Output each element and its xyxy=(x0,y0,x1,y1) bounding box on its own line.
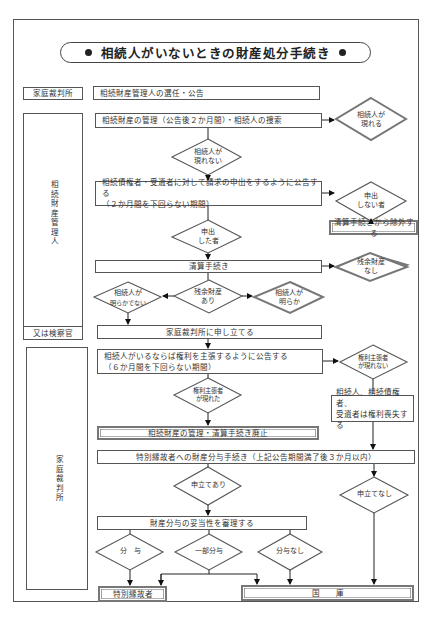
decision-text: なし xyxy=(364,267,378,276)
decision-text: 権利主張者 xyxy=(358,354,388,363)
step-text: 特別縁故者 xyxy=(113,589,153,600)
decision-residual: 残余財産 あり xyxy=(176,285,240,309)
title-banner: 相続人がいないときの財産処分手続き xyxy=(60,42,371,63)
decision-heir-appears: 相続人が 現れる xyxy=(338,108,404,132)
step-text: 国 庫 xyxy=(312,588,344,599)
decision-heir-unclear: 相続人が 明らかでない xyxy=(96,286,160,310)
decision-text: 明らか xyxy=(279,298,300,307)
decision-text: した者 xyxy=(198,237,219,246)
decision-text: 申出 xyxy=(201,228,215,237)
decision-text: 権利主張者 xyxy=(193,387,223,396)
step-management: 相続財産の管理（公告後２か月間）・相続人の捜索 xyxy=(95,113,322,128)
step-appointment: 相続財産管理人の選任・公告 xyxy=(93,86,320,100)
label-text: 又は検察官 xyxy=(33,328,73,339)
step-text: 相続財産管理人の選任・公告 xyxy=(100,88,204,99)
step-text: 相続人、相続債権者、 xyxy=(336,387,413,409)
bullet-icon xyxy=(85,49,92,56)
step-text: （２か月間を下回らない期間） xyxy=(102,199,214,210)
decision-text: 相続人が xyxy=(194,148,222,157)
decision-text: 現れる xyxy=(361,120,382,129)
decision-text: 相続人が xyxy=(275,289,303,298)
left-label-administrator: 相続財産管理人 xyxy=(45,180,59,247)
decision-claimant-appeared: 権利主張者 が現れた xyxy=(177,384,239,406)
decision-text: 相続人が xyxy=(357,111,385,120)
step-notice-creditors: 相続債権者・受遺者に対して請求の申出をするように公告する （２か月間を下回らない… xyxy=(95,181,322,206)
decision-heir-not-appear: 相続人が 現れない xyxy=(176,145,240,169)
decision-text: あり xyxy=(201,297,215,306)
left-label-court-top: 家庭裁判所 xyxy=(23,87,83,100)
step-text: 特別縁故者への財産分与手続き（上記公告期間満了後３か月以内） xyxy=(136,452,376,463)
step-excluded: 清算手続きから除外する xyxy=(329,220,418,235)
decision-no-grant: 分与なし xyxy=(259,545,321,559)
step-rights-lost: 相続人、相続債権者、 受遺者は権利喪失する xyxy=(331,395,414,422)
decision-text: 現れない xyxy=(194,157,222,166)
step-text: （６か月間を下回らない期間） xyxy=(104,362,216,373)
decision-heir-clear: 相続人が 明らか xyxy=(257,286,321,310)
decision-text: 相続人が xyxy=(114,289,142,298)
decision-text: が現れない xyxy=(358,362,388,371)
decision-text: 申出 xyxy=(364,192,378,201)
step-text: 財産分与の妥当性を審理する xyxy=(150,518,254,529)
step-abolished: 相続財産の管理・清算手続き廃止 xyxy=(97,426,319,440)
step-text: 清算手続き xyxy=(189,261,229,272)
decision-text: 申立てなし xyxy=(357,490,392,499)
decision-text: が現れた xyxy=(196,395,220,404)
decision-partial-grant: 一部分与 xyxy=(178,545,240,559)
decision-petition-yes: 申立てあり xyxy=(177,479,239,493)
step-text: 清算手続きから除外する xyxy=(331,217,416,239)
decision-text: 明らかでない xyxy=(110,299,146,307)
decision-text: 残余財産 xyxy=(357,258,385,267)
step-text: 相続債権者・受遺者に対して請求の申出をするように公告する xyxy=(102,177,321,199)
step-text: 家庭裁判所に申し立てる xyxy=(166,327,254,338)
result-national-treasury: 国 庫 xyxy=(241,585,414,601)
decision-claimant-none: 権利主張者 が現れない xyxy=(342,351,404,373)
result-special-person: 特別縁故者 xyxy=(98,586,167,602)
decision-text: 申立てあり xyxy=(191,481,226,490)
bullet-icon xyxy=(339,49,346,56)
decision-text: 分 与 xyxy=(120,547,141,556)
step-special-distribution: 特別縁故者への財産分与手続き（上記公告期間満了後３か月以内） xyxy=(97,450,415,464)
step-text: 相続財産の管理（公告後２か月間）・相続人の捜索 xyxy=(102,115,282,126)
decision-claimed: 申出 した者 xyxy=(176,225,240,249)
step-text: 受遺者は権利喪失する xyxy=(336,409,413,431)
decision-no-residual: 残余財産 なし xyxy=(338,255,404,279)
step-review: 財産分与の妥当性を審理する xyxy=(97,516,307,530)
step-notice-heirs: 相続人がいるならば権利を主張するように公告する （６か月間を下回らない期間） xyxy=(97,349,323,374)
step-liquidation: 清算手続き xyxy=(95,260,322,273)
page-title: 相続人がいないときの財産処分手続き xyxy=(101,43,331,62)
step-text: 相続財産の管理・清算手続き廃止 xyxy=(148,428,268,439)
step-text: 相続人がいるならば権利を主張するように公告する xyxy=(104,351,288,362)
decision-text: しない者 xyxy=(357,201,385,210)
decision-petition-no: 申立てなし xyxy=(343,488,405,502)
decision-not-claimed: 申出 しない者 xyxy=(338,189,404,213)
decision-text: 分与なし xyxy=(276,547,304,556)
left-label-prosecutor: 又は検察官 xyxy=(23,327,83,340)
decision-grant: 分 与 xyxy=(99,545,161,559)
decision-text: 残余財産 xyxy=(194,288,222,297)
label-text: 家庭裁判所 xyxy=(33,88,73,99)
left-label-court-bottom: 家庭裁判所 xyxy=(50,455,64,503)
decision-text: 一部分与 xyxy=(195,547,223,556)
step-petition-court: 家庭裁判所に申し立てる xyxy=(97,325,322,339)
